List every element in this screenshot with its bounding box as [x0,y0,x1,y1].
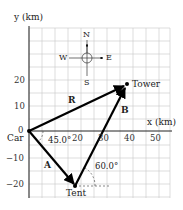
point-tower: Tower [132,80,160,89]
y-axis-label: y (km) [14,13,43,22]
compass-s: S [84,79,89,87]
y-tick-10: 10 [14,102,25,111]
compass-e: E [106,54,112,62]
x-tick-20: 20 [72,134,83,143]
angle-a-label: 45.0° [48,136,71,145]
vector-b-label: B [121,106,129,115]
x-tick-50: 50 [150,134,161,143]
x-tick-40: 40 [124,134,135,143]
point-tent: Tent [66,189,86,198]
compass-rose [69,40,103,76]
angle-b-label: 60.0° [95,162,118,171]
diagram-canvas [0,0,183,210]
y-tick-neg10: −10 [6,154,24,163]
point-car: Car [7,134,24,143]
axes [29,26,172,198]
compass-n: N [83,31,90,39]
vector-a-label: A [44,161,51,170]
y-tick-20: 20 [14,76,25,85]
grid [29,28,170,198]
vector-r-label: R [68,96,75,105]
x-tick-30: 30 [98,134,109,143]
x-axis-label: x (km) [147,118,176,127]
y-tick-neg20: −20 [6,180,24,189]
compass-w: W [59,54,67,62]
